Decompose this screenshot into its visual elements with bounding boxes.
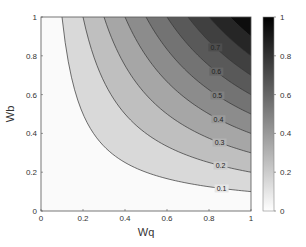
contour-label: 0.4 <box>214 116 224 123</box>
colorbar-tick-label: 0.2 <box>280 168 292 177</box>
x-tick-label: 0 <box>39 214 44 223</box>
x-tick-label: 0.6 <box>161 214 173 223</box>
contour-label: 0.7 <box>210 44 220 51</box>
x-tick-label: 0.4 <box>119 214 131 223</box>
contour-label: 0.1 <box>217 185 227 192</box>
contour-label: 0.2 <box>216 162 226 169</box>
y-axis-ticks: 00.20.40.60.81 <box>26 13 43 216</box>
y-tick-label: 1 <box>33 13 38 22</box>
colorbar-ticks: 00.20.40.60.81 <box>274 13 292 216</box>
x-tick-label: 0.2 <box>77 214 89 223</box>
contour-label: 0.5 <box>213 92 223 99</box>
contour-chart: 0.10.20.30.40.50.60.7 00.20.40.60.81 00.… <box>0 0 306 247</box>
colorbar-tick-label: 1 <box>280 13 285 22</box>
contour-label: 0.3 <box>215 139 225 146</box>
x-tick-label: 1 <box>249 214 254 223</box>
colorbar-tick-label: 0 <box>280 207 285 216</box>
y-tick-label: 0.8 <box>26 52 38 61</box>
y-axis-label: Wb <box>4 106 16 123</box>
x-axis-label: Wq <box>138 226 155 238</box>
y-tick-label: 0.4 <box>26 129 38 138</box>
colorbar-tick-label: 0.4 <box>280 129 292 138</box>
contour-label: 0.6 <box>211 68 221 75</box>
colorbar-tick-label: 0.8 <box>280 52 292 61</box>
colorbar <box>263 17 274 211</box>
x-tick-label: 0.8 <box>203 214 215 223</box>
colorbar-tick-label: 0.6 <box>280 91 292 100</box>
y-tick-label: 0 <box>33 207 38 216</box>
y-tick-label: 0.2 <box>26 168 38 177</box>
y-tick-label: 0.6 <box>26 91 38 100</box>
